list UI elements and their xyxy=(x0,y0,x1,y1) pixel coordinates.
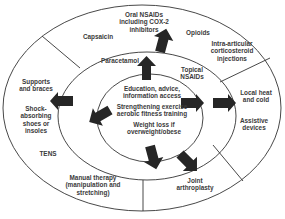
label-line: Supports xyxy=(16,78,56,85)
label-line: Shock- xyxy=(16,105,56,112)
label-line: shoes or xyxy=(16,120,56,127)
arrow-down-right-outer-icon xyxy=(173,147,204,178)
label-line: Weight loss if xyxy=(124,121,184,128)
label-line: Capsaicin xyxy=(78,33,118,40)
label-line: Local heat xyxy=(236,89,276,96)
label-line: aerobic fitness training xyxy=(114,110,190,117)
label-line: including COX-2 xyxy=(114,18,174,25)
label-supports-braces: Supports and braces xyxy=(16,78,56,93)
label-joint-arthroplasty: Joint arthroplasty xyxy=(170,177,220,192)
label-line: Opioids xyxy=(180,29,216,36)
label-line: overweight/obese xyxy=(124,128,184,135)
label-shock-absorbing: Shock- absorbing shoes or insoles xyxy=(16,105,56,135)
label-intra-articular: Intra-articular corticosteroid injection… xyxy=(204,40,260,62)
label-line: inhibitors xyxy=(114,26,174,33)
arrow-right-outer-icon xyxy=(213,94,236,112)
label-manual-therapy: Manual therapy (manipulation and stretch… xyxy=(58,174,128,196)
label-line: absorbing xyxy=(16,112,56,119)
label-tens: TENS xyxy=(36,150,60,157)
label-weight-loss: Weight loss if overweight/obese xyxy=(124,121,184,136)
label-line: Topical xyxy=(172,66,212,73)
label-line: and cold xyxy=(236,96,276,103)
arrow-down-core-icon xyxy=(140,143,166,171)
label-line: and braces xyxy=(16,85,56,92)
label-capsaicin: Capsaicin xyxy=(78,33,118,40)
label-line: NSAIDs xyxy=(172,73,212,80)
label-paracetamol: Paracetamol xyxy=(96,57,144,64)
label-line: Manual therapy xyxy=(58,174,128,181)
label-line: stretching) xyxy=(58,189,128,196)
label-education: Education, advice, information access xyxy=(120,85,184,100)
label-line: Assistive xyxy=(234,117,274,124)
label-line: arthroplasty xyxy=(170,184,220,191)
label-line: Intra-articular xyxy=(204,40,260,47)
label-line: (manipulation and xyxy=(58,181,128,188)
label-opioids: Opioids xyxy=(180,29,216,36)
label-line: injections xyxy=(204,55,260,62)
label-line: Education, advice, xyxy=(120,85,184,92)
label-line: TENS xyxy=(36,150,60,157)
label-assistive-devices: Assistive devices xyxy=(234,117,274,132)
label-oral-nsaids: Oral NSAIDs including COX-2 inhibitors xyxy=(114,11,174,33)
divider-lower-right xyxy=(213,145,243,181)
label-line: Strengthening exercise xyxy=(114,103,190,110)
label-line: corticosteroid xyxy=(204,47,260,54)
label-topical-nsaids: Topical NSAIDs xyxy=(172,66,212,81)
label-line: insoles xyxy=(16,127,56,134)
arrow-down-left-core-icon xyxy=(84,101,115,130)
label-line: Paracetamol xyxy=(96,57,144,64)
label-line: Joint xyxy=(170,177,220,184)
label-local-heat: Local heat and cold xyxy=(236,89,276,104)
divider-upper-left xyxy=(42,36,80,68)
label-line: information access xyxy=(120,92,184,99)
label-line: Oral NSAIDs xyxy=(114,11,174,18)
label-strengthening: Strengthening exercise aerobic fitness t… xyxy=(114,103,190,118)
label-line: devices xyxy=(234,124,274,131)
